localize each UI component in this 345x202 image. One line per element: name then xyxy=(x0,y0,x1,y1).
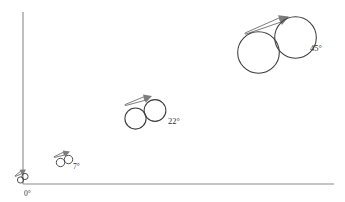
angle-diagram: 0°7°22°45° xyxy=(0,0,345,202)
axes-group xyxy=(23,12,334,184)
angle-label: 7° xyxy=(73,162,80,171)
pair-circle xyxy=(64,155,72,163)
circle-pair-group: 22° xyxy=(125,94,180,129)
circle-pair-groups: 0°7°22°45° xyxy=(15,15,322,198)
pair-circle xyxy=(238,32,280,74)
angle-label: 0° xyxy=(24,189,31,198)
circle-pair-group: 7° xyxy=(54,150,79,171)
direction-arrow-shaft xyxy=(54,152,64,157)
pair-circle xyxy=(125,108,146,129)
direction-arrow-shaft xyxy=(15,171,22,176)
pair-circle xyxy=(144,100,166,122)
direction-arrow-shaft xyxy=(125,97,145,106)
angle-label: 45° xyxy=(310,43,322,53)
circle-pair-group: 45° xyxy=(238,15,322,73)
diagram-canvas: 0°7°22°45° xyxy=(0,0,345,202)
pair-circle xyxy=(56,158,64,166)
angle-label: 22° xyxy=(168,116,180,126)
